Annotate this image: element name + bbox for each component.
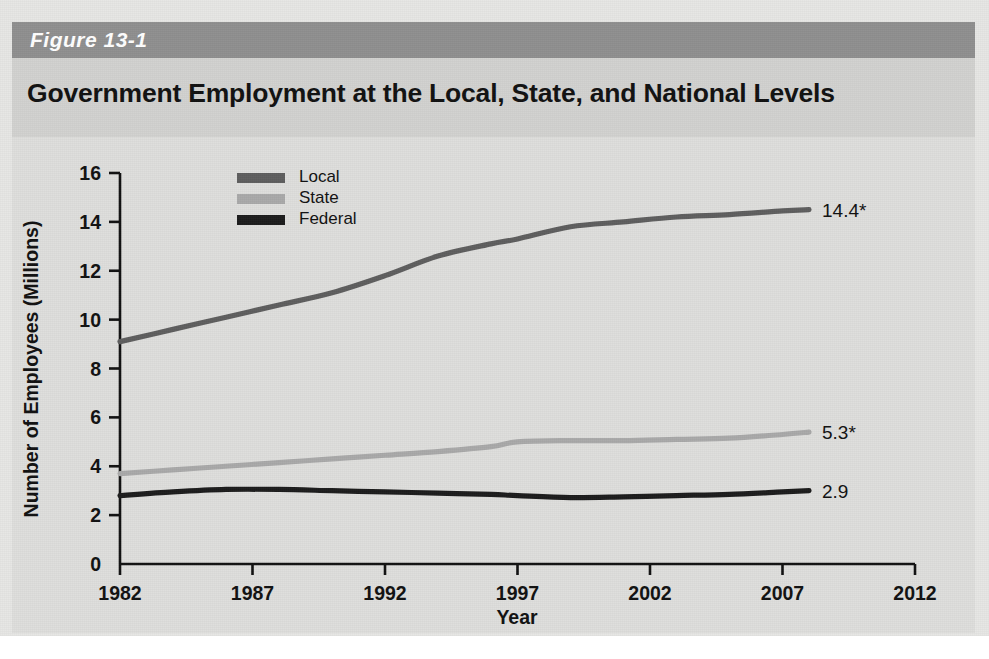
figure-number-label: Figure 13-1: [30, 28, 148, 52]
legend-swatch-federal: [237, 215, 285, 225]
x-axis-title: Year: [496, 606, 538, 628]
y-tick-marks: [109, 173, 120, 515]
x-tick-label: 1987: [231, 582, 274, 604]
y-tick-label: 10: [79, 309, 101, 331]
y-tick-labels: 0246810121416: [79, 162, 101, 575]
figure-number-band: [12, 22, 975, 58]
figure-card: Figure 13-1 Government Employment at the…: [0, 0, 989, 636]
series-line-local: [120, 210, 809, 342]
end-label-local: 14.4*: [822, 200, 867, 221]
legend-label-state: State: [299, 188, 339, 207]
series-line-state: [120, 432, 809, 474]
x-tick-label: 2012: [893, 582, 937, 604]
series-end-labels: 14.4*5.3*2.9: [822, 200, 867, 502]
legend-label-federal: Federal: [299, 209, 357, 228]
axes: [120, 173, 915, 564]
series-line-federal: [120, 489, 809, 497]
x-tick-label: 2007: [761, 582, 804, 604]
figure-title: Government Employment at the Local, Stat…: [27, 78, 967, 109]
end-label-federal: 2.9: [822, 481, 848, 502]
x-tick-labels: 1982198719921997200220072012: [98, 582, 937, 604]
end-label-state: 5.3*: [822, 422, 856, 443]
x-tick-label: 1992: [363, 582, 407, 604]
y-tick-label: 2: [90, 504, 101, 526]
y-tick-label: 0: [90, 553, 101, 575]
legend-label-local: Local: [299, 167, 340, 186]
series-lines: [120, 210, 809, 498]
x-tick-label: 1982: [98, 582, 142, 604]
y-tick-label: 6: [90, 406, 101, 428]
y-tick-label: 14: [79, 211, 101, 233]
chart-legend: LocalStateFederal: [237, 167, 357, 228]
y-axis-title: Number of Employees (Millions): [20, 221, 42, 518]
x-tick-label: 2002: [628, 582, 672, 604]
y-tick-label: 4: [90, 455, 101, 477]
x-tick-marks: [120, 564, 915, 575]
legend-swatch-state: [237, 194, 285, 204]
y-tick-label: 16: [79, 162, 101, 184]
y-tick-label: 12: [79, 260, 101, 282]
y-tick-label: 8: [90, 358, 101, 380]
line-chart: 0246810121416 19821987199219972002200720…: [12, 137, 975, 633]
x-tick-label: 1997: [496, 582, 539, 604]
legend-swatch-local: [237, 173, 285, 183]
plot-region: 0246810121416 19821987199219972002200720…: [12, 137, 975, 633]
